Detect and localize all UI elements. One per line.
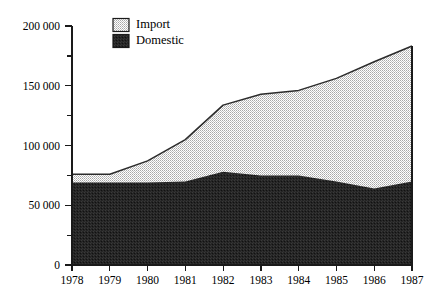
x-tick-label-1983: 1983 — [249, 274, 272, 286]
x-tick-label-1980: 1980 — [136, 274, 159, 286]
x-tick-label-1985: 1985 — [325, 274, 348, 286]
legend-item-import: Import — [113, 17, 171, 31]
import-swatch — [113, 19, 129, 32]
chart-container: 200 000 150 000 100 000 50 000 0 1978 19… — [0, 0, 444, 303]
x-tick-label-1979: 1979 — [98, 274, 121, 286]
x-tick-label-1981: 1981 — [174, 274, 197, 286]
y-tick-label-50000: 50 000 — [28, 199, 60, 211]
legend-item-domestic: Domestic — [113, 33, 184, 47]
x-tick-label-1986: 1986 — [363, 274, 386, 286]
x-tick-label-1987: 1987 — [401, 274, 424, 286]
y-tick-label-100000: 100 000 — [23, 140, 61, 152]
legend-label-import: Import — [136, 17, 171, 31]
y-tick-label-200000: 200 000 — [23, 20, 61, 32]
x-tick-label-1978: 1978 — [61, 274, 84, 286]
stacked-area-chart: 200 000 150 000 100 000 50 000 0 1978 19… — [0, 0, 444, 303]
x-tick-label-1984: 1984 — [287, 274, 310, 286]
domestic-swatch — [113, 35, 129, 48]
x-tick-label-1982: 1982 — [212, 274, 235, 286]
y-tick-label-150000: 150 000 — [23, 80, 61, 92]
legend-label-domestic: Domestic — [136, 33, 184, 47]
y-tick-label-0: 0 — [54, 259, 60, 271]
